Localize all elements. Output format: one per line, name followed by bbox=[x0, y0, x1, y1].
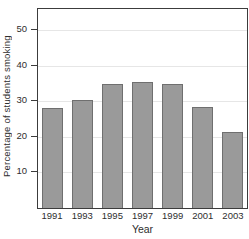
bar-slot bbox=[187, 9, 217, 208]
x-tick-label: 2001 bbox=[188, 210, 218, 221]
bar-chart-figure: Percentage of students smoking 102030405… bbox=[0, 0, 249, 239]
y-axis-ticks: 1020304050 bbox=[0, 8, 37, 207]
y-tick-label: 30 bbox=[16, 95, 27, 105]
x-tick-label: 1999 bbox=[158, 210, 188, 221]
x-axis-title: Year bbox=[37, 223, 248, 235]
bar-slot bbox=[38, 9, 68, 208]
x-tick-label: 1991 bbox=[37, 210, 67, 221]
bar-1997 bbox=[132, 82, 153, 208]
bar-1991 bbox=[42, 108, 63, 208]
x-tick-label: 1995 bbox=[97, 210, 127, 221]
bar-1999 bbox=[162, 84, 183, 208]
bar-1993 bbox=[72, 100, 93, 208]
bar-slot bbox=[217, 9, 247, 208]
bar-2003 bbox=[222, 132, 243, 208]
bar-1995 bbox=[102, 84, 123, 208]
y-tick-label: 40 bbox=[16, 60, 27, 70]
plot-area bbox=[37, 8, 248, 209]
bar-slot bbox=[68, 9, 98, 208]
bar-slot bbox=[128, 9, 158, 208]
bar-2001 bbox=[192, 107, 213, 208]
y-tick-label: 20 bbox=[16, 131, 27, 141]
x-tick-label: 2003 bbox=[218, 210, 248, 221]
x-tick-label: 1997 bbox=[127, 210, 157, 221]
y-tick-label: 10 bbox=[16, 166, 27, 176]
bar-slot bbox=[98, 9, 128, 208]
bar-slot bbox=[157, 9, 187, 208]
x-tick-label: 1993 bbox=[67, 210, 97, 221]
x-axis-labels: 1991199319951997199920012003 bbox=[37, 210, 248, 221]
y-tick-label: 50 bbox=[16, 24, 27, 34]
bars bbox=[38, 9, 247, 208]
